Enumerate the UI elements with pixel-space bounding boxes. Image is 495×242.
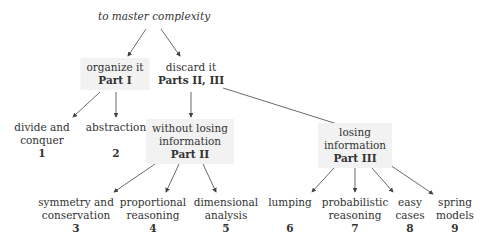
chapter-number: 2 bbox=[86, 147, 146, 160]
losing-part: Part III bbox=[324, 152, 386, 165]
leaf-label: conquer bbox=[14, 134, 69, 147]
leaf-8: easy cases 8 bbox=[395, 196, 424, 235]
chapter-number: 6 bbox=[268, 222, 312, 235]
leaf-1: divide and conquer 1 bbox=[14, 121, 69, 160]
leaf-label: symmetry and bbox=[38, 196, 114, 209]
chapter-number: 5 bbox=[194, 222, 258, 235]
chapter-number: 4 bbox=[120, 222, 186, 235]
leaf-label: dimensional bbox=[194, 196, 258, 209]
leaf-label: proportional bbox=[120, 196, 186, 209]
discard-part: Parts II, III bbox=[158, 74, 224, 87]
leaf-2: abstraction 2 bbox=[86, 121, 146, 160]
leaf-7: probabilistic reasoning 7 bbox=[322, 196, 389, 235]
leaf-label: models bbox=[436, 209, 474, 222]
leaf-label: abstraction bbox=[86, 121, 146, 134]
leaf-label: easy bbox=[395, 196, 424, 209]
chapter-number: 9 bbox=[436, 222, 474, 235]
leaf-label: probabilistic bbox=[322, 196, 389, 209]
chapter-number: 7 bbox=[322, 222, 389, 235]
root-node: to master complexity bbox=[98, 10, 210, 23]
leaf-label: conservation bbox=[38, 209, 114, 222]
leaf-3: symmetry and conservation 3 bbox=[38, 196, 114, 235]
leaf-label: divide and bbox=[14, 121, 69, 134]
organize-node: organize it Part I bbox=[80, 58, 149, 90]
spacer bbox=[268, 209, 312, 222]
leaf-label: cases bbox=[395, 209, 424, 222]
losing-label-2: information bbox=[324, 139, 386, 152]
losing-node: losing information Part III bbox=[318, 123, 392, 168]
leaf-5: dimensional analysis 5 bbox=[194, 196, 258, 235]
without-part: Part II bbox=[152, 148, 228, 161]
losing-label-1: losing bbox=[324, 126, 386, 139]
discard-node: discard it Parts II, III bbox=[158, 61, 224, 87]
leaf-label: reasoning bbox=[120, 209, 186, 222]
organize-part: Part I bbox=[86, 74, 143, 87]
chapter-number: 1 bbox=[14, 147, 69, 160]
organize-label: organize it bbox=[86, 61, 143, 74]
without-label-2: information bbox=[152, 135, 228, 148]
leaf-label: analysis bbox=[194, 209, 258, 222]
chapter-number: 8 bbox=[395, 222, 424, 235]
leaf-4: proportional reasoning 4 bbox=[120, 196, 186, 235]
without-label-1: without losing bbox=[152, 122, 228, 135]
without-losing-node: without losing information Part II bbox=[146, 119, 234, 164]
chapter-number: 3 bbox=[38, 222, 114, 235]
leaf-label: lumping bbox=[268, 196, 312, 209]
root-label: to master complexity bbox=[98, 10, 210, 22]
leaf-9: spring models 9 bbox=[436, 196, 474, 235]
leaf-label: reasoning bbox=[322, 209, 389, 222]
spacer bbox=[86, 134, 146, 147]
discard-label: discard it bbox=[158, 61, 224, 74]
leaf-label: spring bbox=[436, 196, 474, 209]
leaf-6: lumping 6 bbox=[268, 196, 312, 235]
